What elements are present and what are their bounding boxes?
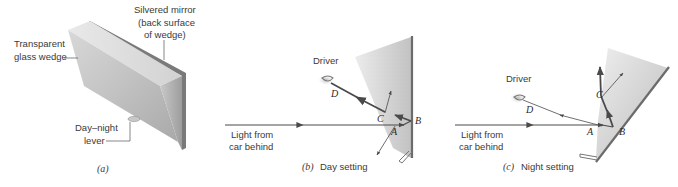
point-a-b: A <box>390 126 398 137</box>
point-b-b: B <box>415 115 421 126</box>
label-transparent: Transparent <box>14 38 65 49</box>
caption-b-letter: (b) <box>302 161 314 173</box>
glass-wedge-c <box>596 48 668 160</box>
light-label-c-2: car behind <box>459 141 503 152</box>
weak-reflection-ad-c <box>560 115 602 126</box>
point-b-c: B <box>619 126 625 137</box>
point-c-c: C <box>596 89 603 100</box>
label-back-surface: (back surface <box>138 17 195 28</box>
point-a-c: A <box>586 126 594 137</box>
caption-a: (a) <box>97 163 109 175</box>
glass-wedge-b <box>355 37 411 158</box>
light-label-b-1: Light from <box>231 129 273 140</box>
label-of-wedge: of wedge) <box>144 29 186 40</box>
driver-label-c: Driver <box>506 73 531 84</box>
light-label-b-2: car behind <box>229 141 273 152</box>
rearview-mirror-figure: Transparent glass wedge Silvered mirror … <box>0 0 678 187</box>
label-day-night: Day–night <box>75 122 118 133</box>
point-c-b: C <box>377 113 384 124</box>
driver-label-b: Driver <box>313 55 338 66</box>
label-silvered-mirror: Silvered mirror <box>134 4 196 15</box>
label-lever: lever <box>84 135 105 146</box>
caption-b-text: Day setting <box>320 161 368 172</box>
caption-c-letter: (c) <box>503 161 515 173</box>
light-label-c-1: Light from <box>461 129 503 140</box>
caption-c-text: Night setting <box>521 161 574 172</box>
point-d-b: D <box>330 88 339 99</box>
label-glass-wedge: glass wedge <box>14 51 67 62</box>
lever-c <box>580 154 597 160</box>
point-d-c: D <box>525 104 534 115</box>
day-night-lever <box>128 116 140 121</box>
